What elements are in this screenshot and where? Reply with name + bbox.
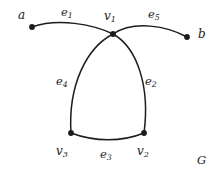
edge-label-e1: e1 [61, 7, 73, 20]
edge-label-e4: e4 [56, 76, 68, 89]
edge-label-e5: e5 [148, 9, 160, 22]
graph-figure: e1e5e4e2e3abv1v2v3 G [0, 0, 219, 179]
edge-e1 [32, 23, 113, 34]
edge-label-e2: e2 [145, 76, 157, 89]
vertex-label-v1: v1 [104, 10, 116, 23]
vertex-label-v3: v3 [56, 145, 68, 158]
vertex-label-v2-base: v [137, 144, 144, 158]
vertex-dot-b [184, 34, 190, 40]
vertex-label-v2-subscript: 2 [144, 149, 149, 159]
vertex-label-a-base: a [18, 8, 25, 22]
figure-caption-G: G [197, 155, 206, 167]
edge-label-e1-subscript: 1 [68, 11, 73, 20]
vertex-label-v3-subscript: 3 [63, 149, 68, 159]
vertex-dot-v3 [68, 130, 74, 136]
edge-e5 [113, 26, 187, 37]
edge-label-e1-base: e [61, 5, 68, 19]
edge-label-e5-base: e [148, 7, 155, 21]
edge-e3 [71, 133, 144, 140]
edge-label-e2-base: e [145, 74, 152, 88]
edge-label-e5-subscript: 5 [155, 13, 160, 22]
vertex-label-b: b [198, 28, 206, 40]
vertex-dot-v1 [110, 31, 116, 37]
vertex-label-b-base: b [198, 27, 206, 41]
node-layer [29, 24, 190, 136]
vertex-dot-v2 [141, 130, 147, 136]
vertex-label-a: a [18, 9, 25, 21]
vertex-label-v1-base: v [104, 9, 111, 23]
edge-label-e3-base: e [100, 147, 107, 161]
edge-label-e4-base: e [56, 74, 63, 88]
edge-label-e3: e3 [100, 149, 112, 162]
vertex-dot-a [29, 24, 35, 30]
edge-label-e3-subscript: 3 [107, 153, 112, 162]
edge-e4 [71, 34, 113, 133]
vertex-label-v3-base: v [56, 144, 63, 158]
edge-e2 [113, 34, 146, 133]
edge-label-e2-subscript: 2 [152, 80, 157, 89]
vertex-label-v1-subscript: 1 [111, 14, 116, 24]
edge-label-e4-subscript: 4 [63, 80, 68, 89]
vertex-label-v2: v2 [137, 145, 149, 158]
